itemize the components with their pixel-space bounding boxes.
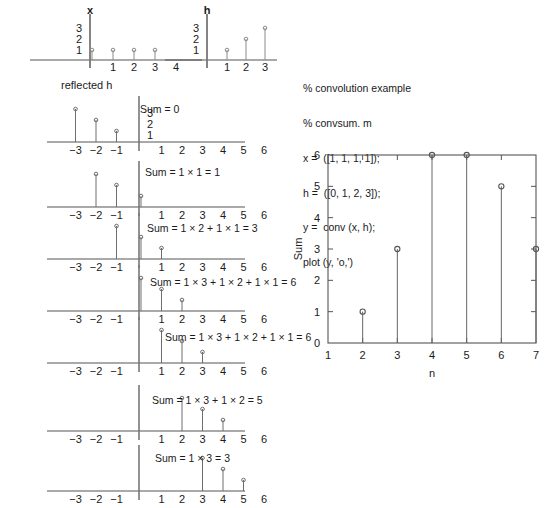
chart-ylabel: Sum [292, 238, 304, 261]
conv-row: −3−2−1123456Sum = 1 × 3 + 1 × 2 + 1 × 1 … [0, 316, 300, 378]
plot-h-stems [225, 26, 267, 60]
conv-row-xtick-label: −1 [110, 144, 123, 156]
conv-row-xtick-label: −3 [69, 493, 82, 505]
conv-row-svg: −3−2−1123456Sum = 1 × 3 + 1 × 2 = 5 [0, 384, 300, 446]
plot-x-xlabel-3: 3 [152, 61, 158, 73]
conv-row-xtick-label: −2 [90, 144, 103, 156]
reflected-h-label: reflected h [61, 79, 112, 91]
conv-row-xtick-label: −3 [69, 365, 82, 377]
result-chart-svg: 12345670123456nSum [290, 145, 546, 385]
conv-row-svg: −3−2−1123456Sum = 1 × 3 = 3 [0, 444, 300, 506]
sum-label: Sum = 0 [140, 103, 180, 115]
code-line-1: % convolution example [303, 83, 411, 95]
conv-row: −3−2−1123456Sum = 1 × 3 + 1 × 2 = 5 [0, 384, 300, 446]
conv-row-ylabel: 1 [147, 129, 153, 141]
chart-ytick-label: 0 [314, 337, 320, 349]
code-line-2: % convsum. m [303, 118, 411, 130]
conv-row-xtick-label: −1 [110, 365, 123, 377]
sum-label: Sum = 1 × 3 + 1 × 2 = 5 [152, 394, 263, 406]
sum-label: Sum = 1 × 3 + 1 × 2 + 1 × 1 = 6 [150, 276, 296, 288]
conv-row-xtick-label: 6 [261, 493, 267, 505]
conv-row-xtick-label: 4 [220, 144, 226, 156]
chart-xtick-label: 2 [360, 349, 366, 361]
conv-row-xtick-label: 3 [199, 493, 205, 505]
conv-row-xtick-label: 2 [179, 365, 185, 377]
chart-ytick-label: 5 [314, 180, 320, 192]
conv-row-xtick-label: 1 [158, 144, 164, 156]
figure-canvas: x 3 2 1 1 2 3 4 [0, 0, 546, 508]
plot-h: h 3 2 1 1 2 3 [165, 6, 285, 72]
plot-h-title: h [204, 4, 211, 16]
chart-xtick-label: 1 [325, 349, 331, 361]
plot-h-ylabel-1: 1 [193, 44, 199, 56]
plot-h-xlabel-1: 1 [224, 61, 230, 73]
sum-label: Sum = 1 × 2 + 1 × 1 = 3 [147, 222, 258, 234]
sum-label: Sum = 1 × 1 = 1 [145, 166, 220, 178]
chart-ytick-label: 4 [314, 212, 320, 224]
conv-row-xtick-label: 4 [220, 493, 226, 505]
result-chart: 12345670123456nSum [290, 145, 546, 385]
conv-row: 321−3−2−1123456Sum = 0 [0, 95, 300, 157]
chart-xtick-label: 4 [429, 349, 435, 361]
conv-row-xtick-label: −2 [90, 493, 103, 505]
chart-xtick-label: 3 [394, 349, 400, 361]
conv-row-xtick-label: 1 [158, 365, 164, 377]
conv-row-xtick-label: −3 [69, 144, 82, 156]
chart-ytick-label: 3 [314, 243, 320, 255]
conv-row-xtick-label: 6 [261, 365, 267, 377]
plot-x-title: x [87, 4, 94, 16]
sum-label: Sum = 1 × 3 = 3 [155, 452, 230, 464]
plot-x-stems [90, 48, 157, 60]
conv-row: −3−2−1123456Sum = 1 × 3 = 3 [0, 444, 300, 506]
conv-row-xtick-label: 3 [199, 144, 205, 156]
conv-row-xtick-label: 5 [240, 144, 246, 156]
chart-xtick-label: 7 [533, 349, 539, 361]
conv-row-xtick-label: 2 [179, 144, 185, 156]
plot-h-xlabel-2: 2 [243, 61, 249, 73]
conv-row-xtick-label: 5 [240, 365, 246, 377]
conv-row-xtick-label: 1 [158, 493, 164, 505]
conv-row-xtick-label: 3 [199, 365, 205, 377]
conv-row-xtick-label: 6 [261, 144, 267, 156]
conv-row-xtick-label: 5 [240, 493, 246, 505]
chart-xtick-label: 5 [464, 349, 470, 361]
plot-x-xlabel-2: 2 [131, 61, 137, 73]
plot-h-xlabel-3: 3 [262, 61, 268, 73]
plot-x-xlabel-1: 1 [110, 61, 116, 73]
chart-ytick-label: 2 [314, 274, 320, 286]
chart-ytick-label: 1 [314, 306, 320, 318]
conv-row-xtick-label: −2 [90, 365, 103, 377]
conv-row-svg: 321−3−2−1123456Sum = 0 [0, 95, 300, 157]
plot-x-ylabel-1: 1 [76, 44, 82, 56]
chart-ytick-label: 6 [314, 149, 320, 161]
plot-h-svg: h 3 2 1 1 2 3 [165, 6, 285, 72]
conv-row-xtick-label: 4 [220, 365, 226, 377]
conv-row-svg: −3−2−1123456Sum = 1 × 3 + 1 × 2 + 1 × 1 … [0, 316, 300, 378]
conv-row-xtick-label: 2 [179, 493, 185, 505]
conv-row-xtick-label: −1 [110, 493, 123, 505]
chart-xlabel: n [429, 367, 435, 379]
chart-xtick-label: 6 [498, 349, 504, 361]
